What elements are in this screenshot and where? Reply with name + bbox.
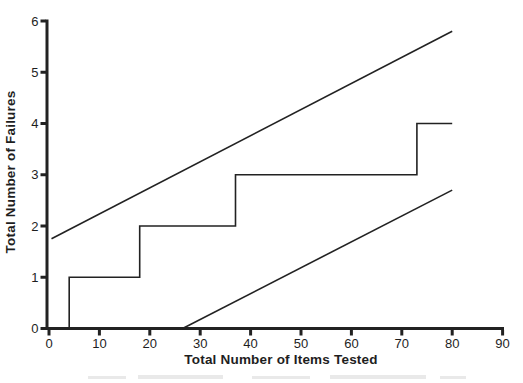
y-tick-label-0: 0 — [31, 321, 38, 336]
lower-decision-boundary-line — [183, 190, 453, 328]
y-tick-label-5: 5 — [31, 65, 38, 80]
observed-failures-step-line — [69, 124, 452, 329]
data-series — [52, 31, 453, 328]
x-axis-title: Total Number of Items Tested — [184, 352, 377, 367]
scan-artifact-cropped-caption — [88, 375, 466, 379]
y-tick-label-1: 1 — [31, 270, 38, 285]
x-tick-label-70: 70 — [395, 336, 409, 351]
x-tick-label-30: 30 — [193, 336, 207, 351]
sequential-test-chart: 0102030405060708090 0123456 Total Number… — [0, 0, 523, 383]
y-axis-ticks: 0123456 — [31, 14, 46, 337]
x-tick-label-0: 0 — [45, 336, 52, 351]
y-tick-label-2: 2 — [31, 219, 38, 234]
x-tick-label-50: 50 — [294, 336, 308, 351]
x-tick-label-20: 20 — [143, 336, 157, 351]
x-tick-label-40: 40 — [243, 336, 257, 351]
upper-decision-boundary-line — [52, 31, 453, 239]
x-tick-label-10: 10 — [92, 336, 106, 351]
x-tick-label-80: 80 — [445, 336, 459, 351]
x-tick-label-60: 60 — [344, 336, 358, 351]
y-tick-label-4: 4 — [31, 116, 38, 131]
x-tick-label-90: 90 — [495, 336, 509, 351]
y-tick-label-3: 3 — [31, 167, 38, 182]
y-tick-label-6: 6 — [31, 14, 38, 29]
chart-canvas: 0102030405060708090 0123456 Total Number… — [0, 0, 523, 383]
x-axis-ticks: 0102030405060708090 — [45, 330, 509, 351]
y-axis-title: Total Number of Failures — [3, 91, 18, 254]
